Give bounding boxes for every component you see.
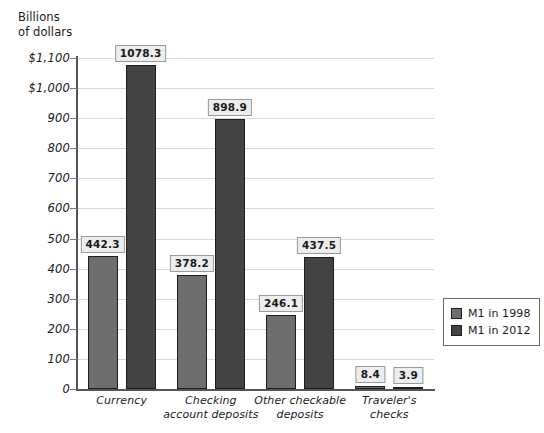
- x-axis-category-label: Currency: [96, 394, 147, 408]
- bar-value-label: 898.9: [208, 99, 252, 116]
- y-axis-tick-label: 700: [4, 171, 70, 185]
- bar-chart: Billions of dollars $1,100$1,00090080070…: [0, 0, 544, 433]
- x-axis-line: [76, 389, 435, 391]
- legend-label-2012: M1 in 2012: [468, 324, 531, 337]
- bar-2012: [126, 65, 156, 389]
- y-axis-tick-label: 900: [4, 111, 70, 125]
- y-axis-tick-label: $1,100: [4, 51, 70, 65]
- plot-area: [77, 58, 434, 389]
- y-axis-tick-mark: [70, 239, 77, 240]
- y-axis-tick-mark: [70, 269, 77, 270]
- y-axis-tick-mark: [70, 389, 77, 390]
- y-axis-tick-mark: [70, 359, 77, 360]
- y-axis-tick-mark: [70, 58, 77, 59]
- y-axis-tick-label: 500: [4, 232, 70, 246]
- x-axis-category-label: Checking account deposits: [163, 394, 258, 422]
- legend-label-1998: M1 in 1998: [468, 307, 531, 320]
- y-axis-tick-labels: $1,100$1,0009008007006005004003002001000: [0, 0, 70, 433]
- legend-swatch-icon-2012: [451, 325, 462, 336]
- y-axis-tick-label: 0: [4, 382, 70, 396]
- y-axis-line: [76, 56, 78, 391]
- bar-value-label: 1078.3: [115, 45, 167, 62]
- bar-2012: [215, 119, 245, 389]
- x-axis-category-label: Traveler's checks: [362, 394, 417, 422]
- bar-value-label: 246.1: [259, 295, 303, 312]
- y-axis-tick-mark: [70, 208, 77, 209]
- y-axis-tick-label: 400: [4, 262, 70, 276]
- bar-1998: [177, 275, 207, 389]
- y-axis-tick-label: 800: [4, 141, 70, 155]
- y-axis-tick-label: 300: [4, 292, 70, 306]
- bar-value-label: 378.2: [170, 255, 214, 272]
- bar-1998: [88, 256, 118, 389]
- y-axis-tick-label: 600: [4, 201, 70, 215]
- legend-item-1998: M1 in 1998: [451, 305, 531, 322]
- bar-value-label: 437.5: [297, 237, 341, 254]
- y-axis-tick-label: 100: [4, 352, 70, 366]
- x-axis-category-label: Other checkable deposits: [254, 394, 346, 422]
- legend-swatch-icon-1998: [451, 308, 462, 319]
- y-axis-tick-mark: [70, 329, 77, 330]
- legend-item-2012: M1 in 2012: [451, 322, 531, 339]
- y-axis-tick-label: 200: [4, 322, 70, 336]
- bar-1998: [266, 315, 296, 389]
- bar-2012: [304, 257, 334, 389]
- bar-value-label: 8.4: [356, 366, 385, 383]
- bar-value-label: 442.3: [81, 236, 125, 253]
- chart-legend: M1 in 1998 M1 in 2012: [443, 298, 540, 346]
- y-axis-tick-mark: [70, 88, 77, 89]
- bar-value-label: 3.9: [394, 367, 423, 384]
- y-axis-tick-mark: [70, 178, 77, 179]
- y-axis-tick-mark: [70, 148, 77, 149]
- y-axis-tick-label: $1,000: [4, 81, 70, 95]
- y-axis-tick-mark: [70, 118, 77, 119]
- y-axis-tick-mark: [70, 299, 77, 300]
